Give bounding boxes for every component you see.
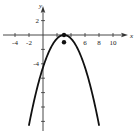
- parabola-line: [29, 35, 99, 125]
- x-tick-label: 10: [110, 39, 118, 47]
- x-tick-label: 8: [97, 39, 101, 47]
- parabola-chart: xy -4-268102-4: [0, 0, 136, 137]
- y-tick-label: 2: [36, 17, 40, 25]
- x-tick-label: -2: [26, 39, 32, 47]
- x-axis-label: x: [129, 32, 134, 40]
- parabola-curve: [29, 35, 99, 125]
- x-tick-label: 6: [83, 39, 87, 47]
- point-dot: [62, 40, 66, 44]
- vertex-dot: [62, 33, 66, 37]
- axes: xy: [3, 2, 134, 131]
- x-tick-label: -4: [12, 39, 18, 47]
- points: [62, 33, 66, 45]
- y-tick-label: -4: [33, 60, 39, 68]
